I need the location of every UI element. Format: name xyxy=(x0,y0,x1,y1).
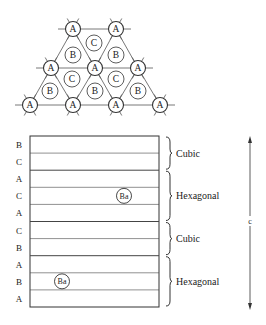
atom-label: A xyxy=(135,63,142,73)
layer-label: B xyxy=(16,277,22,287)
atom-label: A xyxy=(113,24,120,34)
atom-label: A xyxy=(48,63,55,73)
layer-label: A xyxy=(16,208,23,218)
atom-b: B xyxy=(108,47,124,63)
section-label: Hexagonal xyxy=(176,190,220,201)
layer-label: C xyxy=(16,157,22,167)
atom-c: C xyxy=(108,71,124,87)
section-label: Cubic xyxy=(176,148,200,159)
layer-label: A xyxy=(16,174,23,184)
atom-a: A xyxy=(109,22,124,37)
section-braces: CubicHexagonalCubicHexagonal xyxy=(166,137,220,306)
layer-label: A xyxy=(16,260,23,270)
atom-label: C xyxy=(69,74,75,84)
atom-label: A xyxy=(113,100,120,110)
close-packed-layer-atoms: AACBBAAACCBBBAAAA xyxy=(23,22,168,113)
atom-label: C xyxy=(91,38,97,48)
barium-atom: Ba xyxy=(117,188,132,203)
atom-label: B xyxy=(113,50,119,60)
barium-titanate-stacking-diagram: AACBBAAACCBBBAAAA BCACACBABA BaBa CubicH… xyxy=(0,0,266,325)
atom-label: C xyxy=(113,74,119,84)
barium-label: Ba xyxy=(120,192,129,201)
atom-label: A xyxy=(92,63,99,73)
section-brace: Hexagonal xyxy=(166,171,220,220)
barium-label: Ba xyxy=(58,277,67,286)
c-axis-arrow: c xyxy=(246,136,254,310)
atom-a: A xyxy=(109,98,124,113)
arrow-up-icon xyxy=(248,136,252,143)
atom-a: A xyxy=(66,98,81,113)
layer-label: A xyxy=(16,294,23,304)
layer-label: C xyxy=(16,191,22,201)
section-brace: Cubic xyxy=(166,137,200,169)
c-axis-label: c xyxy=(248,217,252,226)
atom-c: C xyxy=(86,35,102,51)
atom-a: A xyxy=(131,61,146,76)
atom-b: B xyxy=(130,83,146,99)
layer-label: C xyxy=(16,226,22,236)
atom-label: A xyxy=(157,100,164,110)
atom-a: A xyxy=(88,61,103,76)
atom-label: B xyxy=(70,50,76,60)
layer-label: B xyxy=(16,140,22,150)
section-label: Hexagonal xyxy=(176,276,220,287)
layer-labels: BCACACBABA xyxy=(16,140,23,304)
atom-a: A xyxy=(66,22,81,37)
atom-a: A xyxy=(153,98,168,113)
section-label: Cubic xyxy=(176,233,200,244)
atom-b: B xyxy=(87,83,103,99)
section-brace: Cubic xyxy=(166,223,200,255)
stacking-sequence-box xyxy=(30,136,159,307)
atom-a: A xyxy=(23,98,38,113)
atom-a: A xyxy=(44,61,59,76)
atom-label: B xyxy=(47,86,53,96)
atom-b: B xyxy=(42,83,58,99)
arrow-down-icon xyxy=(248,303,252,310)
atom-label: B xyxy=(135,86,141,96)
atom-label: A xyxy=(70,24,77,34)
atom-label: B xyxy=(92,86,98,96)
atom-b: B xyxy=(65,47,81,63)
atom-label: A xyxy=(27,100,34,110)
section-brace: Hexagonal xyxy=(166,257,220,306)
atom-c: C xyxy=(64,71,80,87)
layer-label: B xyxy=(16,243,22,253)
barium-atom: Ba xyxy=(55,274,70,289)
atom-label: A xyxy=(70,100,77,110)
